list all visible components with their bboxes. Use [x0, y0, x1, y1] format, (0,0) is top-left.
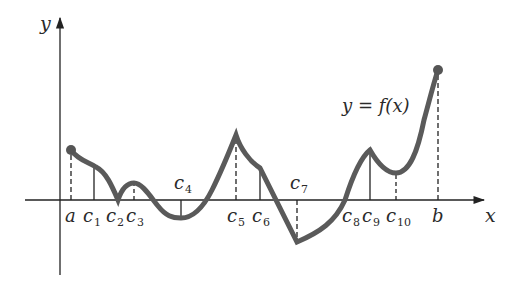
label-b: b	[432, 205, 444, 226]
label-c10: c10	[386, 205, 411, 229]
label-c8: c8	[342, 205, 360, 229]
label-c2: c2	[106, 205, 124, 229]
label-c4: c4	[174, 172, 192, 196]
label-c7: c7	[290, 172, 308, 196]
endpoint-b-dot	[433, 65, 443, 75]
y-axis-label: y	[39, 12, 51, 34]
label-c1: c1	[83, 205, 101, 229]
label-a: a	[65, 205, 76, 226]
endpoint-a-dot	[66, 145, 76, 155]
label-c3: c3	[126, 205, 144, 229]
label-c9: c9	[362, 205, 380, 229]
label-c6: c6	[252, 205, 270, 229]
axes: y x	[25, 12, 496, 275]
critical-points-diagram: y x y = f(x) a c1 c2 c3 c4 c5 c6 c7 c8 c…	[0, 0, 520, 282]
x-axis-label: x	[485, 204, 496, 226]
label-c5: c5	[227, 205, 245, 229]
function-label: y = f(x)	[341, 95, 410, 116]
